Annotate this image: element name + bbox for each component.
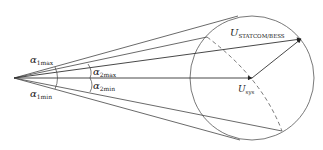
alpha1max-label: α1max bbox=[30, 54, 54, 66]
alpha2min-arc bbox=[90, 78, 92, 92]
alpha2max-label: α2max bbox=[93, 66, 117, 78]
lower-tangent-line bbox=[14, 78, 240, 140]
u-statcom-label: USTATCOM/BESS bbox=[230, 27, 285, 39]
phasor-diagram: α1max α1min α2max α2min USTATCOM/BESS Us… bbox=[0, 0, 323, 150]
alpha2max-arc bbox=[88, 64, 91, 78]
upper-tangent-line bbox=[14, 16, 238, 78]
u-sys-label: Usys bbox=[238, 84, 255, 96]
alpha2min-label: α2min bbox=[93, 80, 115, 92]
alpha1min-label: α1min bbox=[30, 88, 52, 100]
